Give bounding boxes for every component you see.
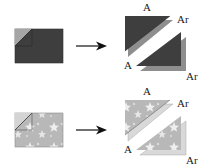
label-a: A	[124, 59, 132, 71]
cutting-diagram: A Ar A Ar A Ar	[0, 0, 210, 166]
label-ar: Ar	[177, 13, 189, 25]
label-a: A	[124, 143, 132, 155]
fabric-rectangle-dark	[15, 29, 63, 63]
label-ar: Ar	[186, 70, 198, 82]
fabric-rectangle-print	[15, 113, 63, 147]
arrow-icon	[76, 42, 107, 51]
row-solid-fabric: A Ar A Ar	[15, 1, 198, 82]
label-ar: Ar	[177, 97, 189, 109]
label-a: A	[143, 85, 151, 97]
label-a: A	[143, 1, 151, 13]
row-star-print-fabric: A Ar A Ar	[15, 85, 198, 166]
label-ar: Ar	[186, 154, 198, 166]
arrow-icon	[76, 126, 107, 135]
